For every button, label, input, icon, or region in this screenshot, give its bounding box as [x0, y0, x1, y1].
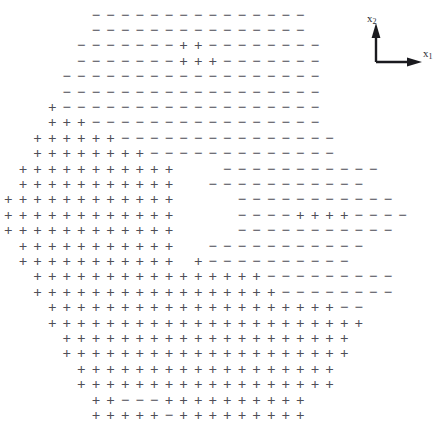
- data-point-minus: −: [236, 162, 249, 177]
- data-point-plus: +: [119, 408, 132, 423]
- data-point-minus: −: [352, 223, 365, 238]
- data-point-plus: +: [104, 146, 117, 161]
- data-point-minus: −: [294, 100, 307, 115]
- data-point-minus: −: [206, 23, 219, 38]
- data-point-minus: −: [177, 8, 190, 23]
- data-point-plus: +: [31, 146, 44, 161]
- data-point-minus: −: [265, 254, 278, 269]
- data-point-plus: +: [133, 377, 146, 392]
- data-point-minus: −: [221, 54, 234, 69]
- axis-label-x1-subscript: 1: [429, 52, 433, 61]
- data-point-plus: +: [90, 177, 103, 192]
- data-point-plus: +: [119, 146, 132, 161]
- data-point-plus: +: [323, 346, 336, 361]
- data-point-minus: −: [133, 54, 146, 69]
- data-point-plus: +: [31, 208, 44, 223]
- data-point-plus: +: [294, 393, 307, 408]
- data-point-minus: −: [148, 38, 161, 53]
- data-point-plus: +: [192, 285, 205, 300]
- data-point-minus: −: [148, 131, 161, 146]
- data-point-minus: −: [133, 69, 146, 84]
- data-point-plus: +: [60, 346, 73, 361]
- data-point-plus: +: [119, 362, 132, 377]
- data-point-minus: −: [148, 54, 161, 69]
- data-point-minus: −: [236, 239, 249, 254]
- data-point-plus: +: [236, 346, 249, 361]
- data-point-minus: −: [382, 223, 395, 238]
- data-point-minus: −: [192, 131, 205, 146]
- data-point-plus: +: [133, 346, 146, 361]
- data-point-plus: +: [177, 377, 190, 392]
- data-point-minus: −: [352, 285, 365, 300]
- data-point-plus: +: [60, 223, 73, 238]
- data-point-plus: +: [163, 223, 176, 238]
- data-point-minus: −: [396, 208, 409, 223]
- data-point-plus: +: [250, 316, 263, 331]
- data-point-minus: −: [309, 100, 322, 115]
- data-point-minus: −: [221, 254, 234, 269]
- data-point-plus: +: [192, 54, 205, 69]
- data-point-plus: +: [119, 316, 132, 331]
- data-point-minus: −: [323, 146, 336, 161]
- data-point-plus: +: [221, 269, 234, 284]
- data-point-plus: +: [75, 346, 88, 361]
- data-point-minus: −: [148, 69, 161, 84]
- data-point-plus: +: [206, 300, 219, 315]
- data-point-plus: +: [177, 316, 190, 331]
- data-point-plus: +: [163, 393, 176, 408]
- data-point-minus: −: [192, 69, 205, 84]
- data-point-plus: +: [75, 331, 88, 346]
- data-point-minus: −: [104, 115, 117, 130]
- data-point-plus: +: [2, 192, 15, 207]
- data-point-plus: +: [236, 300, 249, 315]
- data-point-plus: +: [60, 177, 73, 192]
- data-point-minus: −: [177, 131, 190, 146]
- data-point-minus: −: [236, 85, 249, 100]
- data-point-minus: −: [104, 100, 117, 115]
- data-point-plus: +: [60, 208, 73, 223]
- data-point-minus: −: [265, 146, 278, 161]
- data-point-plus: +: [133, 362, 146, 377]
- data-point-plus: +: [90, 192, 103, 207]
- data-point-minus: −: [294, 131, 307, 146]
- axis-label-x2: x2: [367, 12, 377, 26]
- data-point-minus: −: [352, 208, 365, 223]
- data-point-minus: −: [90, 54, 103, 69]
- data-point-minus: −: [236, 23, 249, 38]
- data-point-plus: +: [17, 177, 30, 192]
- data-point-minus: −: [119, 393, 132, 408]
- data-point-plus: +: [46, 131, 59, 146]
- data-point-plus: +: [250, 408, 263, 423]
- data-point-minus: −: [250, 223, 263, 238]
- data-point-plus: +: [177, 393, 190, 408]
- data-point-minus: −: [104, 8, 117, 23]
- data-point-minus: −: [206, 239, 219, 254]
- data-point-plus: +: [177, 408, 190, 423]
- data-point-minus: −: [294, 85, 307, 100]
- data-point-plus: +: [192, 316, 205, 331]
- data-point-plus: +: [163, 239, 176, 254]
- data-point-plus: +: [133, 254, 146, 269]
- data-point-plus: +: [60, 269, 73, 284]
- data-point-minus: −: [192, 146, 205, 161]
- data-point-plus: +: [119, 377, 132, 392]
- data-point-minus: −: [90, 69, 103, 84]
- data-point-minus: −: [294, 254, 307, 269]
- data-point-minus: −: [163, 69, 176, 84]
- data-point-minus: −: [163, 38, 176, 53]
- data-point-minus: −: [279, 192, 292, 207]
- data-point-plus: +: [46, 100, 59, 115]
- data-point-plus: +: [192, 346, 205, 361]
- data-point-plus: +: [309, 316, 322, 331]
- data-point-minus: −: [279, 239, 292, 254]
- data-point-minus: −: [367, 162, 380, 177]
- data-point-plus: +: [60, 316, 73, 331]
- data-point-minus: −: [338, 300, 351, 315]
- data-point-minus: −: [236, 177, 249, 192]
- data-point-plus: +: [60, 254, 73, 269]
- data-point-plus: +: [323, 208, 336, 223]
- data-point-minus: −: [279, 8, 292, 23]
- data-point-minus: −: [279, 23, 292, 38]
- data-point-plus: +: [148, 223, 161, 238]
